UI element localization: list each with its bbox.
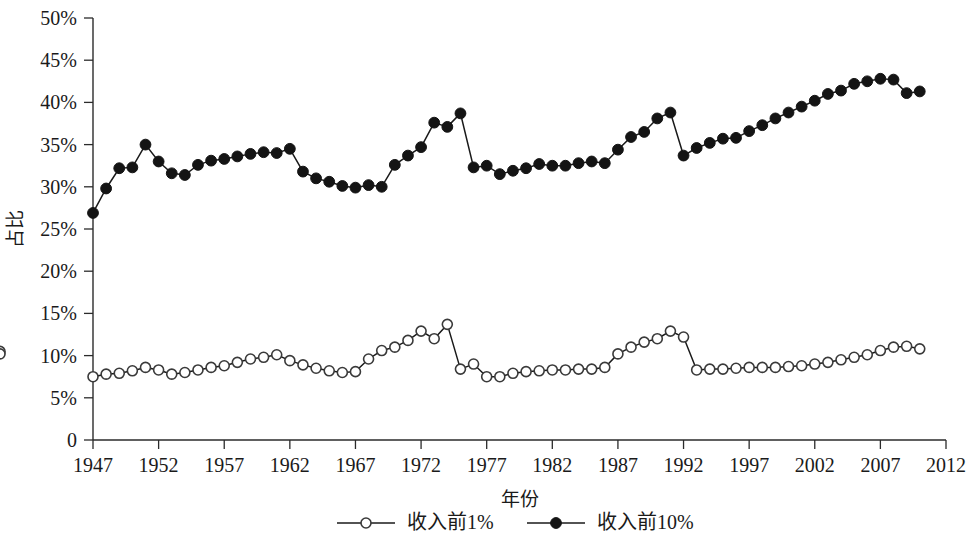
data-point-marker [272,350,282,360]
data-point-marker [836,355,846,365]
data-point-marker [167,369,177,379]
data-point-marker [784,362,794,372]
chart-legend: 收入前1%收入前10% [337,511,694,533]
y-tick-label: 45% [40,49,77,71]
data-point-marker [547,365,557,375]
data-point-marker [823,357,833,367]
data-point-marker [888,74,899,85]
x-tick-label: 1987 [598,454,638,476]
data-point-marker [101,183,112,194]
data-point-marker [862,76,873,87]
data-point-marker [259,352,269,362]
data-point-marker [652,334,662,344]
legend-item-1[interactable]: 收入前1% [337,511,494,533]
data-point-marker [219,154,230,165]
data-point-marker [337,367,347,377]
y-tick-label: 50% [40,7,77,29]
data-point-marker [679,332,689,342]
y-tick-label: 30% [40,176,77,198]
data-point-marker [469,359,479,369]
data-point-marker [836,85,847,96]
data-point-marker [665,326,675,336]
x-tick-label: 1992 [664,454,704,476]
data-point-marker [245,354,255,364]
data-point-marker [757,120,768,131]
data-point-marker [416,142,427,153]
data-point-marker [481,160,492,171]
data-point-marker [127,162,138,173]
data-point-marker [797,361,807,371]
data-point-marker [390,342,400,352]
data-point-marker [770,113,781,124]
data-point-marker [232,357,242,367]
y-tick-label: 35% [40,134,77,156]
data-point-marker [193,365,203,375]
legend-item-2[interactable]: 收入前10% [527,511,694,533]
data-point-marker [127,366,137,376]
data-point-marker [521,163,532,174]
data-point-marker [363,180,374,191]
data-point-marker [166,168,177,179]
data-point-marker [547,160,558,171]
data-point-marker [376,181,387,192]
data-point-marker [796,101,807,112]
y-axis-group: 05%10%15%20%25%30%35%40%45%50% 占比 [5,7,93,451]
data-point-marker [114,163,125,174]
data-point-marker [560,365,570,375]
data-point-marker [600,362,610,372]
data-point-marker [114,368,124,378]
data-point-marker [284,143,295,154]
x-tick-label: 1982 [532,454,572,476]
x-tick-label: 1947 [73,454,113,476]
x-tick-label: 2007 [860,454,900,476]
data-point-marker [691,143,702,154]
data-point-marker [534,159,545,170]
data-point-marker [626,342,636,352]
data-point-marker [534,366,544,376]
data-point-marker [258,147,269,158]
data-point-marker [639,337,649,347]
data-point-marker [206,362,216,372]
series-2 [88,73,926,218]
data-point-marker [508,165,519,176]
data-point-marker [324,176,335,187]
data-point-marker [88,208,99,219]
data-point-marker [0,349,5,359]
data-point-marker [862,350,872,360]
data-point-marker [494,169,505,180]
data-point-marker [153,156,164,167]
x-tick-label: 1957 [204,454,244,476]
data-point-marker [298,166,309,177]
data-point-marker [914,86,925,97]
data-point-marker [219,361,229,371]
data-point-marker [350,182,361,193]
data-point-marker [849,352,859,362]
x-tick-label: 1952 [139,454,179,476]
data-point-marker [337,181,348,192]
x-tick-label: 1977 [467,454,507,476]
legend-marker [361,518,371,528]
y-tick-label: 0 [67,429,77,451]
legend-item-label: 收入前10% [597,511,694,533]
x-tick-label: 2002 [795,454,835,476]
data-point-marker [718,133,729,144]
data-point-marker [232,151,243,162]
data-point-marker [875,73,886,84]
y-tick-label: 25% [40,218,77,240]
data-point-marker [429,117,440,128]
data-point-marker [902,341,912,351]
x-axis-ticks: 1947195219571962196719721977198219871992… [73,440,966,476]
line-chart: 05%10%15%20%25%30%35%40%45%50% 占比 194719… [0,0,968,548]
data-point-marker [442,121,453,132]
data-point-marker [704,138,715,149]
data-point-marker [849,78,860,89]
data-point-marker [455,108,466,119]
data-point-marker [180,367,190,377]
data-point-marker [599,158,610,169]
y-tick-label: 5% [50,387,77,409]
series-1 [0,319,925,381]
data-point-marker [783,107,794,118]
data-point-marker [678,150,689,161]
series-polyline [93,324,920,376]
legend-marker [551,518,562,529]
